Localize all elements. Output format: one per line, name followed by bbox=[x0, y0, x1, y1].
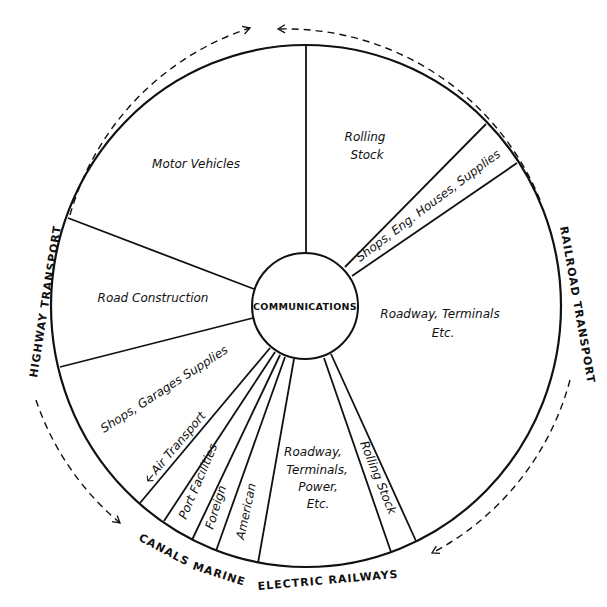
label-roadway-electric-2: Terminals, bbox=[286, 463, 348, 477]
label-canals: CANALS bbox=[137, 531, 192, 568]
label-railroad-transport: RAILROAD TRANSPORT bbox=[557, 225, 598, 384]
label-rolling-stock-railroad-2: Stock bbox=[350, 148, 384, 162]
communications-wheel-diagram: COMMUNICATIONS Motor Vehicles Rolling St… bbox=[0, 0, 607, 607]
hub-label: COMMUNICATIONS bbox=[253, 301, 357, 312]
railroad-arrow-bottom bbox=[432, 380, 570, 553]
label-highway-transport: HIGHWAY TRANSPORT bbox=[27, 224, 64, 378]
label-rolling-stock-railroad-1: Rolling bbox=[345, 130, 386, 144]
label-electric-railways: ELECTRIC RAILWAYS bbox=[257, 568, 399, 593]
label-road-construction: Road Construction bbox=[98, 291, 209, 305]
label-roadway-electric-3: Power, bbox=[298, 480, 337, 494]
cropped-caption-strip bbox=[40, 596, 540, 607]
label-rolling-stock-electric: Rolling Stock bbox=[357, 439, 400, 517]
label-marine: MARINE bbox=[191, 559, 247, 588]
label-roadway-electric-4: Etc. bbox=[307, 497, 330, 511]
highway-arrow-top bbox=[70, 28, 250, 215]
label-shops-garages: Shops, Garages Supplies bbox=[98, 343, 230, 436]
label-roadway-railroad-2: Etc. bbox=[432, 326, 455, 340]
label-roadway-railroad-1: Roadway, Terminals bbox=[380, 307, 499, 321]
label-roadway-electric-1: Roadway, bbox=[284, 445, 342, 459]
label-shops-eng-houses: Shops, Eng. Houses, Supplies bbox=[353, 147, 503, 265]
label-motor-vehicles: Motor Vehicles bbox=[152, 157, 240, 171]
